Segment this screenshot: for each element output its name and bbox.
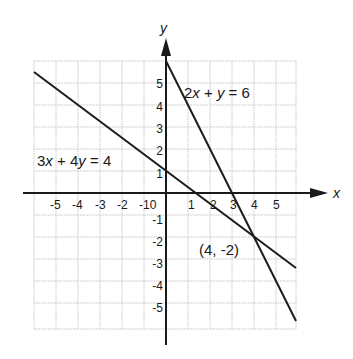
intersection-label: (4, -2)	[199, 241, 239, 258]
svg-text:2: 2	[156, 144, 163, 158]
x-axis-label: x	[332, 185, 341, 201]
svg-text:-2: -2	[152, 235, 163, 249]
svg-text:-2: -2	[117, 198, 128, 212]
svg-text:4: 4	[251, 198, 258, 212]
svg-text:5: 5	[156, 77, 163, 91]
svg-text:-1: -1	[152, 213, 163, 227]
origin-label: -10	[139, 198, 157, 212]
svg-text:-5: -5	[50, 198, 61, 212]
y-tick-labels: 5 4 3 2 1 -1 -2 -3 -4 -5	[152, 77, 163, 315]
svg-text:-5: -5	[152, 301, 163, 315]
equation-label-3x-4y: 3x + 4y = 4	[37, 152, 111, 169]
equation-label-2x-y: 2x + y = 6	[184, 84, 250, 101]
coordinate-plane: x y -5 -4 -3 -2 -10 1 2 3 4 5 5 4 3 2 1 …	[0, 0, 353, 359]
chart-figure: x y -5 -4 -3 -2 -10 1 2 3 4 5 5 4 3 2 1 …	[0, 0, 353, 359]
svg-text:5: 5	[273, 198, 280, 212]
axes	[23, 48, 318, 345]
y-axis-arrow-icon	[161, 38, 171, 56]
y-axis-label: y	[159, 20, 168, 36]
svg-text:1: 1	[188, 198, 195, 212]
svg-text:4: 4	[156, 100, 163, 114]
svg-text:3: 3	[156, 122, 163, 136]
svg-text:-4: -4	[72, 198, 83, 212]
svg-text:-4: -4	[152, 279, 163, 293]
x-axis-arrow-icon	[310, 188, 328, 198]
svg-text:-3: -3	[152, 257, 163, 271]
svg-text:-3: -3	[95, 198, 106, 212]
